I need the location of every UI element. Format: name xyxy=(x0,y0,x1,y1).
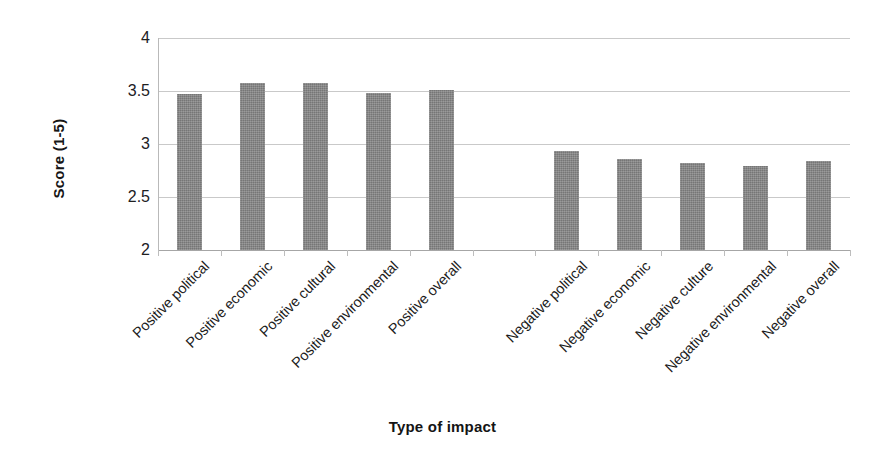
x-category-label-text: Positive environmental xyxy=(289,258,402,371)
bar xyxy=(177,94,202,250)
y-tick-label: 3 xyxy=(104,135,150,153)
x-axis-category-labels: Positive politicalPositive economicPosit… xyxy=(158,252,850,402)
x-axis-title: Type of impact xyxy=(0,418,885,435)
y-tick-label: 3.5 xyxy=(104,82,150,100)
y-tick-label: 4 xyxy=(104,29,150,47)
y-axis-tick-labels: 22.533.54 xyxy=(98,38,150,250)
y-tick-label: 2.5 xyxy=(104,188,150,206)
bar xyxy=(554,151,579,250)
y-tick-label: 2 xyxy=(104,241,150,259)
bar-chart: Score (1-5) 22.533.54 Positive political… xyxy=(0,0,885,460)
x-category-label-text: Negative environmental xyxy=(661,258,778,375)
y-axis-title: Score (1-5) xyxy=(50,79,67,239)
